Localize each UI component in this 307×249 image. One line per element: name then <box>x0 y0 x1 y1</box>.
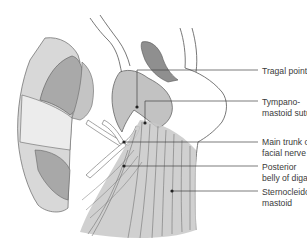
label-sternocleidomastoid: Sternocleido- mastoid <box>262 187 307 208</box>
label-posterior-belly-digastric: Posterior belly of digastric <box>262 162 307 183</box>
label-text: facial nerve <box>262 148 307 159</box>
label-text: Sternocleido- <box>262 187 307 198</box>
sternocleidomastoid-muscle <box>80 120 196 238</box>
label-text: Tragal pointer <box>262 66 307 77</box>
label-text: Posterior <box>262 162 307 173</box>
label-text: mastoid <box>262 198 307 209</box>
label-tympanomastoid-suture: Tympano- mastoid suture <box>262 97 307 118</box>
label-tragal-pointer: Tragal pointer <box>262 66 307 77</box>
label-main-trunk-facial-nerve: Main trunk of facial nerve <box>262 137 307 158</box>
label-text: mastoid suture <box>262 108 307 119</box>
label-text: Tympano- <box>262 97 307 108</box>
anatomy-illustration <box>0 0 307 249</box>
label-text: Main trunk of <box>262 137 307 148</box>
tragal-cartilage <box>141 42 178 82</box>
label-text: belly of digastric <box>262 173 307 184</box>
